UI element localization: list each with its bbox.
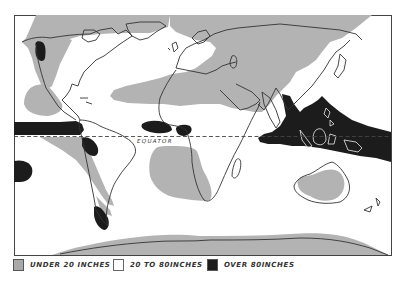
- rainfall-map-figure: EQUATOR UNDER 20 INCHES 20 TO 80INCHES O…: [0, 0, 402, 285]
- legend-item-20-to-80: 20 TO 80INCHES: [113, 258, 203, 272]
- world-rainfall-map: EQUATOR: [0, 0, 402, 256]
- equator-label: EQUATOR: [137, 138, 173, 144]
- legend-label-under-20: UNDER 20 INCHES: [30, 261, 110, 269]
- map-legend: UNDER 20 INCHES 20 TO 80INCHES OVER 80IN…: [0, 256, 402, 285]
- legend-item-under-20: UNDER 20 INCHES: [13, 258, 110, 272]
- legend-swatch-white: [113, 259, 124, 271]
- wet-zone-eastern-pacific: [14, 121, 84, 135]
- legend-swatch-gray: [13, 259, 24, 271]
- legend-label-over-80: OVER 80INCHES: [224, 261, 295, 269]
- legend-item-over-80: OVER 80INCHES: [207, 258, 295, 272]
- legend-label-20-to-80: 20 TO 80INCHES: [130, 261, 203, 269]
- legend-swatch-black: [207, 259, 218, 271]
